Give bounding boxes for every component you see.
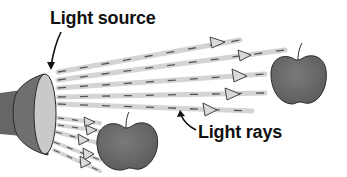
apple-near-icon [97,112,158,170]
arrowhead-icon [225,88,240,100]
light-rays-near [54,117,100,171]
arrowhead-icon [86,125,97,135]
pointer-arrowhead-icon [47,62,55,70]
pointer-arrowhead-icon [177,110,185,117]
light-rays-far [58,37,285,116]
pointer-arrow-icon [181,115,196,130]
light-rays-label: Light rays [198,122,282,143]
arrowhead-icon [232,69,247,82]
flashlight-icon [0,74,56,155]
light-source-label: Light source [50,8,156,29]
arrowhead-icon [78,134,89,145]
pointer-arrow-icon [51,32,61,66]
arrowhead-icon [238,50,251,61]
arrowhead-icon [203,103,217,116]
